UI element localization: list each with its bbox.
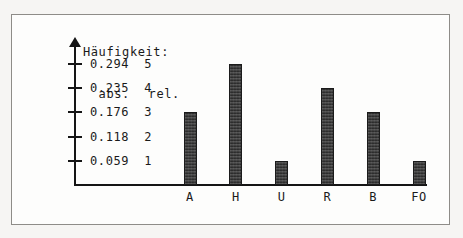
y-axis-label-row: 30.176: [12, 105, 152, 119]
y-axis-label-row: 10.059: [12, 154, 152, 168]
bar: [184, 112, 197, 185]
y-axis-label-relative: 0.118: [90, 130, 129, 144]
y-axis-label-relative: 0.235: [90, 81, 129, 95]
bar: [367, 112, 380, 185]
figure-frame: Häufigkeit: abs.rel. 50.29440.23530.1762…: [11, 14, 450, 225]
x-axis-label: U: [262, 190, 302, 204]
y-axis-label-relative: 0.294: [90, 57, 129, 71]
y-axis-label-relative: 0.059: [90, 154, 129, 168]
bar: [229, 64, 242, 185]
y-axis-label-row: 50.294: [12, 57, 152, 71]
bar-chart-plot: Häufigkeit: abs.rel. 50.29440.23530.1762…: [12, 15, 451, 226]
y-axis-label-row: 40.235: [12, 81, 152, 95]
x-axis-label: R: [307, 190, 347, 204]
x-axis-label: A: [170, 190, 210, 204]
axis-label-relative: rel.: [149, 87, 180, 101]
bar: [275, 161, 288, 185]
y-axis-label-row: 20.118: [12, 130, 152, 144]
bar: [413, 161, 426, 185]
x-axis-label: H: [216, 190, 256, 204]
bar: [321, 88, 334, 185]
x-axis-label: B: [353, 190, 393, 204]
y-axis-label-relative: 0.176: [90, 105, 129, 119]
x-axis-label: FO: [399, 190, 439, 204]
